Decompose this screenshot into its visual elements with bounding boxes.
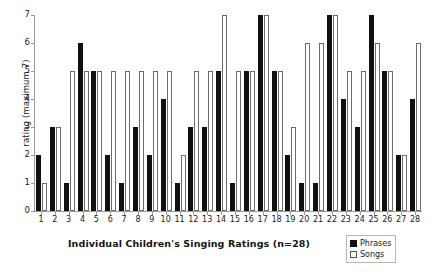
bar-pair bbox=[201, 15, 215, 211]
bar-phrases-9 bbox=[147, 155, 152, 211]
bar-songs-10 bbox=[167, 71, 172, 211]
bar-pair bbox=[243, 15, 257, 211]
bar-pair bbox=[77, 15, 91, 211]
bar-phrases-7 bbox=[119, 183, 124, 211]
bar-pair bbox=[146, 15, 160, 211]
bar-phrases-13 bbox=[202, 127, 207, 211]
bar-group bbox=[35, 15, 422, 211]
bar-songs-6 bbox=[111, 71, 116, 211]
legend: Phrases Songs bbox=[346, 235, 396, 263]
y-tick-label: 1 bbox=[17, 178, 30, 187]
bar-pair bbox=[90, 15, 104, 211]
bar-songs-20 bbox=[305, 43, 310, 211]
bar-phrases-19 bbox=[285, 155, 290, 211]
bar-phrases-22 bbox=[327, 15, 332, 211]
bar-pair bbox=[132, 15, 146, 211]
bar-songs-18 bbox=[278, 71, 283, 211]
y-tick-label: 0 bbox=[17, 206, 30, 215]
bar-songs-12 bbox=[194, 71, 199, 211]
bar-pair bbox=[271, 15, 285, 211]
bar-songs-15 bbox=[236, 71, 241, 211]
bar-songs-8 bbox=[139, 71, 144, 211]
bar-phrases-24 bbox=[355, 127, 360, 211]
y-tick bbox=[31, 211, 35, 212]
bar-phrases-11 bbox=[175, 183, 180, 211]
bar-phrases-5 bbox=[91, 71, 96, 211]
bar-songs-23 bbox=[347, 71, 352, 211]
bar-songs-11 bbox=[181, 155, 186, 211]
bar-pair bbox=[395, 15, 409, 211]
bar-pair bbox=[160, 15, 174, 211]
y-tick-label: 2 bbox=[17, 150, 30, 159]
y-tick-label: 3 bbox=[17, 122, 30, 131]
bar-phrases-23 bbox=[341, 99, 346, 211]
bar-pair bbox=[49, 15, 63, 211]
bar-songs-7 bbox=[125, 71, 130, 211]
bar-phrases-21 bbox=[313, 183, 318, 211]
bar-songs-28 bbox=[416, 43, 421, 211]
bar-phrases-27 bbox=[396, 155, 401, 211]
bar-phrases-2 bbox=[50, 127, 55, 211]
bar-phrases-20 bbox=[299, 183, 304, 211]
bar-songs-17 bbox=[264, 15, 269, 211]
y-tick-label: 7 bbox=[17, 10, 30, 19]
bar-phrases-25 bbox=[369, 15, 374, 211]
bar-songs-1 bbox=[42, 183, 47, 211]
x-axis-line bbox=[34, 211, 422, 212]
bar-songs-13 bbox=[208, 71, 213, 211]
bar-pair bbox=[118, 15, 132, 211]
bar-songs-9 bbox=[153, 71, 158, 211]
bar-phrases-26 bbox=[382, 71, 387, 211]
bar-pair bbox=[409, 15, 423, 211]
y-tick-label: 5 bbox=[17, 66, 30, 75]
bar-songs-26 bbox=[388, 71, 393, 211]
bar-pair bbox=[284, 15, 298, 211]
bar-pair bbox=[326, 15, 340, 211]
bar-songs-4 bbox=[84, 71, 89, 211]
bar-songs-3 bbox=[70, 71, 75, 211]
bar-songs-19 bbox=[291, 127, 296, 211]
bar-pair bbox=[340, 15, 354, 211]
y-tick-label: 6 bbox=[17, 38, 30, 47]
bar-phrases-12 bbox=[188, 127, 193, 211]
bar-phrases-6 bbox=[105, 155, 110, 211]
chart-figure: rating (maximum 7) 01234567 123456789101… bbox=[0, 0, 432, 278]
bar-phrases-28 bbox=[410, 99, 415, 211]
bar-phrases-15 bbox=[230, 183, 235, 211]
plot-area: 01234567 1234567891011121314151617181920… bbox=[34, 15, 422, 212]
bar-pair bbox=[229, 15, 243, 211]
bar-pair bbox=[257, 15, 271, 211]
bar-songs-16 bbox=[250, 71, 255, 211]
bar-songs-2 bbox=[56, 127, 61, 211]
legend-item-songs: Songs bbox=[350, 249, 391, 260]
bar-pair bbox=[174, 15, 188, 211]
bar-phrases-4 bbox=[78, 43, 83, 211]
bar-songs-21 bbox=[319, 43, 324, 211]
bar-songs-24 bbox=[361, 71, 366, 211]
bar-phrases-10 bbox=[161, 99, 166, 211]
x-axis-title: Individual Children's Singing Ratings (n… bbox=[34, 238, 344, 249]
bar-pair bbox=[368, 15, 382, 211]
bar-pair bbox=[215, 15, 229, 211]
bar-pair bbox=[104, 15, 118, 211]
bar-phrases-18 bbox=[272, 71, 277, 211]
bar-phrases-14 bbox=[216, 71, 221, 211]
legend-swatch-phrases bbox=[350, 240, 357, 247]
bar-phrases-8 bbox=[133, 127, 138, 211]
bar-pair bbox=[354, 15, 368, 211]
bar-songs-14 bbox=[222, 15, 227, 211]
bar-songs-5 bbox=[97, 71, 102, 211]
legend-label-songs: Songs bbox=[360, 251, 384, 259]
bar-pair bbox=[63, 15, 77, 211]
bar-pair bbox=[187, 15, 201, 211]
bar-phrases-1 bbox=[36, 155, 41, 211]
bar-phrases-3 bbox=[64, 183, 69, 211]
legend-swatch-songs bbox=[350, 251, 357, 258]
x-tick-label: 28 bbox=[407, 216, 423, 224]
bar-pair bbox=[35, 15, 49, 211]
bar-pair bbox=[381, 15, 395, 211]
legend-label-phrases: Phrases bbox=[360, 240, 391, 248]
bar-songs-25 bbox=[375, 43, 380, 211]
legend-item-phrases: Phrases bbox=[350, 238, 391, 249]
bar-pair bbox=[312, 15, 326, 211]
